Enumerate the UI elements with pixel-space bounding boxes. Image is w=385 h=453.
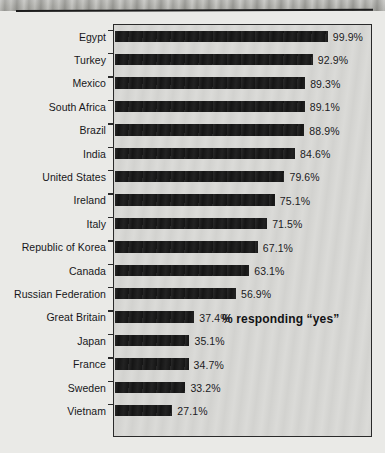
- value-label: 71.5%: [272, 218, 302, 230]
- category-label: Republic of Korea: [0, 241, 106, 253]
- category-label: United States: [0, 171, 106, 183]
- bar: [115, 148, 296, 160]
- category-label: Ireland: [0, 194, 106, 206]
- axis-tick: [108, 334, 114, 336]
- category-label: France: [0, 358, 106, 370]
- category-label: Russian Federation: [0, 288, 106, 300]
- category-label: India: [0, 148, 106, 160]
- bar-row: Mexico89.3%: [0, 71, 385, 94]
- value-label: 99.9%: [333, 31, 363, 43]
- bar: [115, 54, 313, 66]
- axis-tick: [108, 404, 114, 406]
- value-label: 34.7%: [194, 359, 224, 371]
- axis-tick: [108, 53, 114, 55]
- value-label: 88.9%: [309, 125, 339, 137]
- bar: [115, 335, 190, 347]
- header-divider-rule: [16, 9, 373, 12]
- bar-row: Vietnam27.1%: [0, 399, 385, 422]
- bar-row: Canada63.1%: [0, 259, 385, 282]
- category-label: Great Britain: [0, 311, 106, 323]
- axis-tick: [108, 100, 114, 102]
- value-label: 89.3%: [310, 78, 340, 90]
- category-label: Italy: [0, 218, 106, 230]
- bar: [115, 382, 186, 394]
- bar: [115, 101, 305, 113]
- category-label: South Africa: [0, 101, 106, 113]
- category-label: Brazil: [0, 124, 106, 136]
- bar-row: Sweden33.2%: [0, 376, 385, 399]
- value-label: 35.1%: [194, 335, 224, 347]
- axis-tick: [108, 193, 114, 195]
- bar-row: United States79.6%: [0, 165, 385, 188]
- axis-tick: [108, 287, 114, 289]
- bar: [115, 31, 328, 43]
- category-label: Sweden: [0, 382, 106, 394]
- value-label: 79.6%: [289, 171, 319, 183]
- axis-tick: [108, 30, 114, 32]
- axis-tick: [108, 123, 114, 125]
- bar-row: Japan35.1%: [0, 329, 385, 352]
- value-label: 75.1%: [280, 195, 310, 207]
- axis-tick: [108, 240, 114, 242]
- axis-tick: [108, 217, 114, 219]
- bar-row: Republic of Korea67.1%: [0, 235, 385, 258]
- bar: [115, 218, 268, 230]
- value-label: 92.9%: [318, 54, 348, 66]
- value-label: 63.1%: [254, 265, 284, 277]
- bar: [115, 241, 258, 253]
- bar: [115, 405, 173, 417]
- bar-row: South Africa89.1%: [0, 95, 385, 118]
- value-label: 56.9%: [241, 288, 271, 300]
- bar: [115, 194, 275, 206]
- axis-tick: [108, 381, 114, 383]
- value-label: 84.6%: [300, 148, 330, 160]
- category-label: Japan: [0, 335, 106, 347]
- category-label: Vietnam: [0, 405, 106, 417]
- bar-row: Russian Federation56.9%: [0, 282, 385, 305]
- category-label: Egypt: [0, 31, 106, 43]
- bar: [115, 358, 189, 370]
- value-label: 67.1%: [263, 242, 293, 254]
- bar-row: Ireland75.1%: [0, 188, 385, 211]
- bar-row: Brazil88.9%: [0, 118, 385, 141]
- bar: [115, 265, 250, 277]
- value-label: 27.1%: [177, 405, 207, 417]
- axis-tick: [108, 170, 114, 172]
- chart-annotation: % responding “yes”: [222, 312, 339, 326]
- axis-tick: [108, 147, 114, 149]
- category-label: Canada: [0, 265, 106, 277]
- value-label: 89.1%: [310, 101, 340, 113]
- bar-row: Egypt99.9%: [0, 25, 385, 48]
- bar: [115, 288, 236, 300]
- bar-row: Turkey92.9%: [0, 48, 385, 71]
- category-label: Mexico: [0, 77, 106, 89]
- bar: [115, 311, 195, 323]
- category-label: Turkey: [0, 54, 106, 66]
- bar-row: Italy71.5%: [0, 212, 385, 235]
- axis-tick: [108, 357, 114, 359]
- axis-tick: [108, 310, 114, 312]
- axis-tick: [108, 264, 114, 266]
- bar: [115, 77, 306, 89]
- axis-tick: [108, 76, 114, 78]
- value-label: 33.2%: [190, 382, 220, 394]
- bar-row: India84.6%: [0, 142, 385, 165]
- bar: [115, 124, 305, 136]
- bar-row: France34.7%: [0, 352, 385, 375]
- bar: [115, 171, 285, 183]
